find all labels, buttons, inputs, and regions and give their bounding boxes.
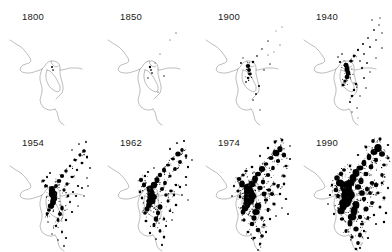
coastline-group [10,166,82,251]
map-panel-1850[interactable]: 1850 [98,0,196,126]
panel-year-label-1800: 1800 [22,11,44,22]
bay-area-map-1962 [98,126,196,252]
bay-area-map-1850 [98,0,196,126]
map-panel-1800[interactable]: 1800 [0,0,98,126]
small-multiples-figure: 1800 1850 1900 1940 1954 1962 1974 1990 [0,0,392,252]
map-panel-1974[interactable]: 1974 [196,126,294,252]
coastline-group [304,40,376,125]
map-panel-1900[interactable]: 1900 [196,0,294,126]
bay-area-map-1990 [294,126,392,252]
coastline-group [206,40,278,125]
urban-area-group [147,32,176,92]
urban-area-group [138,140,193,246]
bay-area-map-1940 [294,0,392,126]
map-panel-1940[interactable]: 1940 [294,0,392,126]
bay-area-map-1954 [0,126,98,252]
coastline-group [10,40,82,125]
bay-area-map-1900 [196,0,294,126]
panel-year-label-1962: 1962 [120,137,142,148]
map-panel-1990[interactable]: 1990 [294,126,392,252]
panel-year-label-1974: 1974 [218,137,240,148]
coastline-group [108,166,180,251]
bay-area-map-1800 [0,0,98,126]
urban-area-group [41,141,91,247]
panel-year-label-1940: 1940 [316,11,338,22]
panel-year-label-1900: 1900 [218,11,240,22]
map-panel-1954[interactable]: 1954 [0,126,98,252]
panel-year-label-1990: 1990 [316,137,338,148]
urban-area-group [51,66,54,71]
urban-area-group [327,137,390,250]
bay-area-map-1974 [196,126,294,252]
panel-year-label-1850: 1850 [120,11,142,22]
coastline-group [108,40,180,125]
panel-year-label-1954: 1954 [22,137,44,148]
map-panel-1962[interactable]: 1962 [98,126,196,252]
urban-area-group [337,17,383,118]
